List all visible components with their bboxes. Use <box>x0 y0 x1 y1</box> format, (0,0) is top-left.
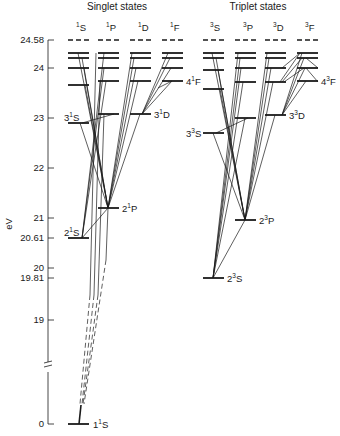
tick-label: 19 <box>33 314 44 325</box>
level-labels: 11S 21S 31S 21P 31D 41F 23S 33S 23P 33D … <box>64 75 336 430</box>
label-4-1F: 41F <box>186 75 201 87</box>
column-header-1F: 1F <box>170 21 180 33</box>
label-3-1D: 31D <box>154 108 170 120</box>
label-2-3S: 23S <box>227 272 242 284</box>
column-headers: 1S 1P 1D 1F 3S 3P 3D 3F <box>76 21 315 33</box>
resonance-lines-solid-end <box>79 405 81 424</box>
triplet-states-title: Triplet states <box>230 1 287 12</box>
column-header-3F: 3F <box>305 21 315 33</box>
energy-levels <box>68 53 318 424</box>
label-3-1S: 31S <box>64 111 79 123</box>
column-header-1D: 1D <box>138 21 149 33</box>
resonance-lines-dashed <box>80 260 106 404</box>
label-3-3S: 33S <box>186 127 201 139</box>
tick-label: 24.58 <box>20 34 44 45</box>
tick-label: 22 <box>33 162 44 173</box>
label-2-1S: 21S <box>64 226 79 238</box>
label-3-3D: 33D <box>289 109 305 121</box>
label-1-1S: 11S <box>93 418 108 430</box>
label-2-3P: 23P <box>259 214 274 226</box>
energy-axis <box>44 40 54 424</box>
tick-label: 21 <box>33 212 44 223</box>
column-header-3S: 3S <box>210 21 220 33</box>
column-header-3P: 3P <box>243 21 253 33</box>
axis-tick-labels: 24.58 24 23 22 21 20.61 20 19.81 19 0 eV <box>3 34 44 429</box>
tick-label: 0 <box>39 418 44 429</box>
label-2-1P: 21P <box>122 202 137 214</box>
column-header-1S: 1S <box>76 21 86 33</box>
column-header-1P: 1P <box>106 21 116 33</box>
column-header-3D: 3D <box>273 21 284 33</box>
tick-label: 19.81 <box>20 272 44 283</box>
transition-lines <box>78 53 318 295</box>
label-4-3F: 43F <box>321 75 336 87</box>
helium-grotrian-diagram: Singlet states Triplet states 1S 1P 1D 1… <box>0 0 340 436</box>
tick-label: 20.61 <box>20 232 44 243</box>
tick-label: 23 <box>33 112 44 123</box>
tick-label: 24 <box>33 62 44 73</box>
y-axis-label: eV <box>3 218 14 230</box>
singlet-states-title: Singlet states <box>87 1 147 12</box>
